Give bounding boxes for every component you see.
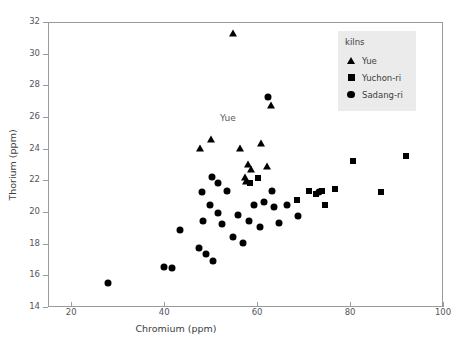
data-point-sadang-ri — [199, 189, 206, 196]
data-point-sadang-ri — [203, 251, 210, 258]
legend: kilns YueYuchon-riSadang-ri — [338, 31, 416, 111]
data-point-yuchon-ri — [350, 158, 356, 164]
data-point-sadang-ri — [260, 198, 267, 205]
plot-annotation: Yue — [220, 113, 236, 123]
scatter-chart-figure: Thorium (ppm) Yue 14161820222426283032 2… — [0, 0, 468, 352]
data-point-sadang-ri — [229, 233, 236, 240]
x-tick-label: 60 — [252, 307, 263, 317]
data-point-yuchon-ri — [306, 188, 312, 194]
data-point-yuchon-ri — [378, 189, 384, 195]
data-point-sadang-ri — [256, 224, 263, 231]
y-tick-label: 18 — [29, 237, 40, 250]
y-axis-title: Thorium (ppm) — [4, 0, 20, 330]
data-point-sadang-ri — [245, 217, 252, 224]
data-point-sadang-ri — [265, 94, 272, 101]
data-point-sadang-ri — [218, 221, 225, 228]
y-tick-label: 22 — [29, 173, 40, 186]
data-point-yue — [207, 135, 215, 142]
legend-item-sadang-ri[interactable]: Sadang-ri — [345, 87, 409, 102]
data-point-sadang-ri — [234, 211, 241, 218]
data-point-sadang-ri — [105, 279, 112, 286]
x-tick-label: 100 — [435, 307, 451, 317]
data-point-sadang-ri — [206, 202, 213, 209]
data-point-sadang-ri — [315, 189, 322, 196]
data-point-sadang-ri — [177, 227, 184, 234]
y-tick-label: 24 — [29, 142, 40, 155]
data-point-yue — [267, 102, 275, 109]
x-tick-label: 40 — [159, 307, 170, 317]
data-point-yue — [196, 145, 204, 152]
x-tick-label: 80 — [345, 307, 356, 317]
y-tick-label: 28 — [29, 78, 40, 91]
data-point-sadang-ri — [215, 179, 222, 186]
triangle-marker-icon — [345, 55, 357, 67]
data-point-sadang-ri — [195, 244, 202, 251]
data-point-sadang-ri — [214, 210, 221, 217]
legend-item-label: Yuchon-ri — [362, 73, 401, 83]
data-point-sadang-ri — [294, 213, 301, 220]
data-point-yuchon-ri — [255, 175, 261, 181]
legend-item-label: Sadang-ri — [362, 90, 403, 100]
data-point-sadang-ri — [200, 217, 207, 224]
data-point-yue — [257, 140, 265, 147]
y-axis-title-text: Thorium (ppm) — [7, 129, 18, 200]
data-point-yuchon-ri — [247, 180, 253, 186]
y-tick-label: 16 — [29, 268, 40, 281]
square-marker-icon — [345, 72, 357, 84]
data-point-sadang-ri — [276, 219, 283, 226]
legend-title: kilns — [345, 37, 409, 47]
legend-item-yue[interactable]: Yue — [345, 53, 409, 68]
y-tick-label: 20 — [29, 205, 40, 218]
data-point-yuchon-ri — [294, 197, 300, 203]
data-point-yuchon-ri — [322, 202, 328, 208]
data-point-sadang-ri — [269, 187, 276, 194]
data-point-yue — [263, 162, 271, 169]
y-tick-label: 32 — [29, 15, 40, 28]
data-point-yue — [236, 145, 244, 152]
data-point-sadang-ri — [240, 240, 247, 247]
x-axis-title-text: Chromium (ppm) — [135, 323, 216, 334]
data-point-yuchon-ri — [403, 153, 409, 159]
data-point-yue — [247, 165, 255, 172]
data-point-yue — [229, 29, 237, 36]
data-point-sadang-ri — [169, 265, 176, 272]
x-axis-title: Chromium (ppm) — [0, 323, 468, 334]
y-tick-label: 14 — [29, 300, 40, 313]
legend-item-yuchon-ri[interactable]: Yuchon-ri — [345, 70, 409, 85]
y-tick-label: 30 — [29, 47, 40, 60]
data-point-sadang-ri — [223, 187, 230, 194]
data-point-sadang-ri — [208, 173, 215, 180]
data-point-yuchon-ri — [332, 186, 338, 192]
data-point-sadang-ri — [209, 257, 216, 264]
legend-item-label: Yue — [362, 56, 377, 66]
data-point-sadang-ri — [161, 263, 168, 270]
circle-marker-icon — [345, 89, 357, 101]
y-tick-label: 26 — [29, 110, 40, 123]
legend-entries: YueYuchon-riSadang-ri — [345, 53, 409, 102]
y-tick: 14 — [43, 307, 48, 308]
data-point-sadang-ri — [283, 202, 290, 209]
data-point-sadang-ri — [270, 203, 277, 210]
x-tick: 100 — [443, 302, 444, 307]
data-point-sadang-ri — [251, 202, 258, 209]
x-tick-label: 20 — [66, 307, 77, 317]
